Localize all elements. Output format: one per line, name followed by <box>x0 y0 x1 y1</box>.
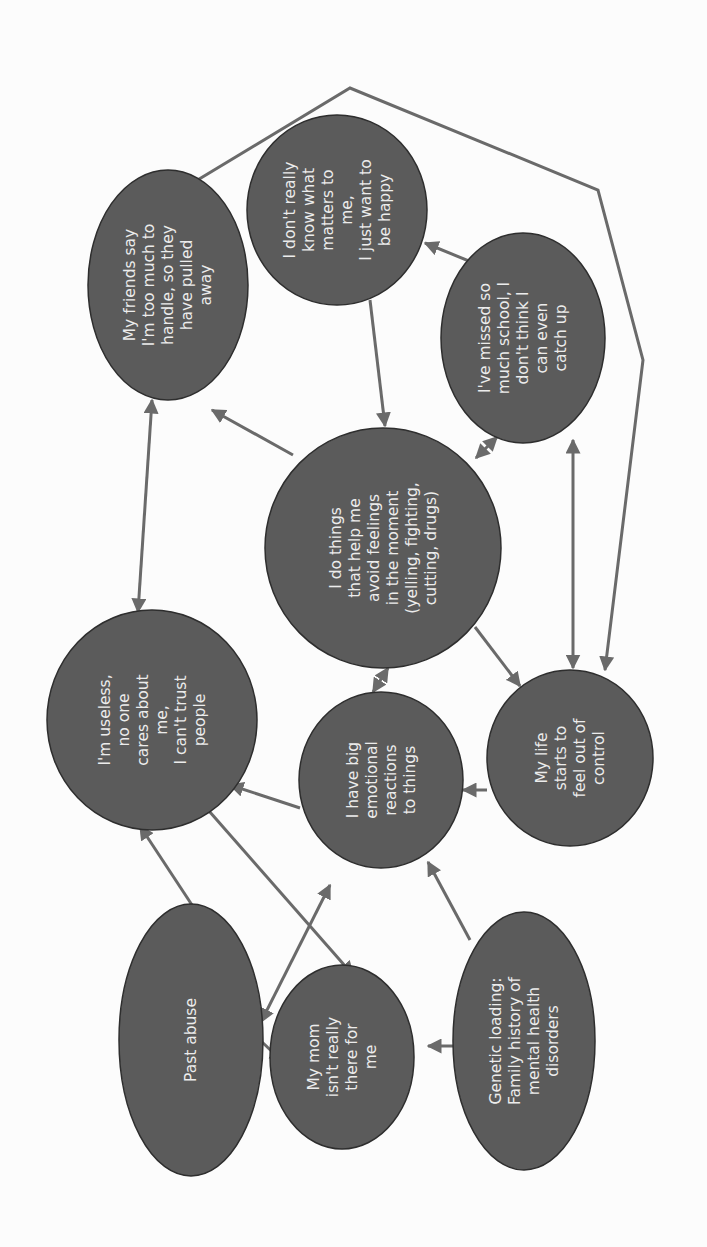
node-label-line: disorders <box>544 1005 562 1077</box>
edge-genetic-big_reactions <box>428 862 470 940</box>
node-label-line: I don't really <box>281 162 299 259</box>
node-label-line: people <box>191 694 209 747</box>
node-label-line: catch up <box>552 304 570 371</box>
node-label-line: (yelling, fighting, <box>403 482 421 614</box>
node-avoid: I do thingsthat help meavoid feelingsin … <box>265 428 501 668</box>
node-label-line: don't think I <box>514 292 532 385</box>
node-label-line: I just want to <box>357 159 375 260</box>
node-big_reactions: I have bigemotionalreactionsto things <box>299 692 463 868</box>
node-label-line: mental health <box>525 987 543 1095</box>
node-friends: My friends sayI'm too much tohandle, so … <box>88 170 248 400</box>
node-label-line: My mom <box>305 1023 323 1090</box>
node-label-line: emotional <box>363 741 381 819</box>
node-label-line: can even <box>533 303 551 374</box>
edge-avoid-friends <box>212 410 293 455</box>
node-label-line: handle, so they <box>159 225 177 345</box>
node-label-line: have pulled <box>178 240 196 331</box>
edge-past_abuse-useless <box>140 826 192 905</box>
node-label-line: in the moment <box>384 491 402 606</box>
node-label-line: I do things <box>327 507 345 589</box>
node-label-line: I'm too much to <box>140 224 158 347</box>
node-label-line: no one <box>115 693 133 746</box>
node-label-line: control <box>590 731 608 785</box>
node-label-line: cares about <box>134 674 152 765</box>
node-missed_school: I've missed somuch school, Idon't think … <box>441 233 605 443</box>
node-label-line: to things <box>401 746 419 814</box>
node-genetic: Genetic loading:Family history ofmental … <box>453 912 595 1170</box>
node-label-line: there for <box>343 1023 361 1091</box>
concept-map: My friends sayI'm too much tohandle, so … <box>0 0 707 1247</box>
node-label-line: Family history of <box>506 976 524 1105</box>
node-label-line: I'm useless, <box>96 674 114 765</box>
node-label-line: I've missed so <box>476 283 494 393</box>
node-label-line: I have big <box>344 742 362 818</box>
node-useless: I'm useless,no onecares aboutme,I can't … <box>47 610 257 830</box>
node-label-line: away <box>197 265 215 306</box>
node-label-line: isn't really <box>324 1017 342 1097</box>
edge-useless-big_reactions <box>230 785 300 808</box>
node-label-line: My friends say <box>121 229 139 342</box>
edge-avoid-out_of_control <box>475 627 520 686</box>
node-past_abuse: Past abuse <box>119 904 263 1176</box>
edge-avoid-missed_school <box>476 437 497 458</box>
node-label-line: know what <box>300 168 318 252</box>
node-label-line: Genetic loading: <box>487 977 505 1104</box>
node-label-line: me <box>362 1045 380 1070</box>
node-label-line: reactions <box>382 744 400 815</box>
node-label-line: I can't trust <box>172 675 190 764</box>
node-label-line: me, <box>153 705 171 735</box>
node-label-line: matters to <box>319 169 337 250</box>
node-label-line: starts to <box>552 726 570 791</box>
edge-avoid-big_reactions <box>373 668 388 692</box>
node-label-line: me, <box>338 195 356 225</box>
node-mom: My momisn't reallythere forme <box>270 965 414 1149</box>
node-label-line: feel out of <box>571 718 589 798</box>
node-label: Past abuse <box>182 998 200 1082</box>
node-out_of_control: My lifestarts tofeel out ofcontrol <box>487 670 653 846</box>
nodes-layer: My friends sayI'm too much tohandle, so … <box>47 115 653 1176</box>
node-label-line: much school, I <box>495 282 513 394</box>
node-label-line: My life <box>533 732 551 783</box>
node-label-line: avoid feelings <box>365 494 383 602</box>
node-label: I have bigemotionalreactionsto things <box>344 741 419 819</box>
node-label-line: Past abuse <box>182 998 200 1082</box>
edge-friends-useless <box>138 400 152 612</box>
node-label-line: be happy <box>376 174 394 246</box>
edge-dont_know-avoid <box>370 300 385 426</box>
node-label-line: that help me <box>346 498 364 597</box>
node-label-line: cutting, drugs) <box>422 491 440 605</box>
node-dont_know: I don't reallyknow whatmatters tome,I ju… <box>247 115 427 305</box>
